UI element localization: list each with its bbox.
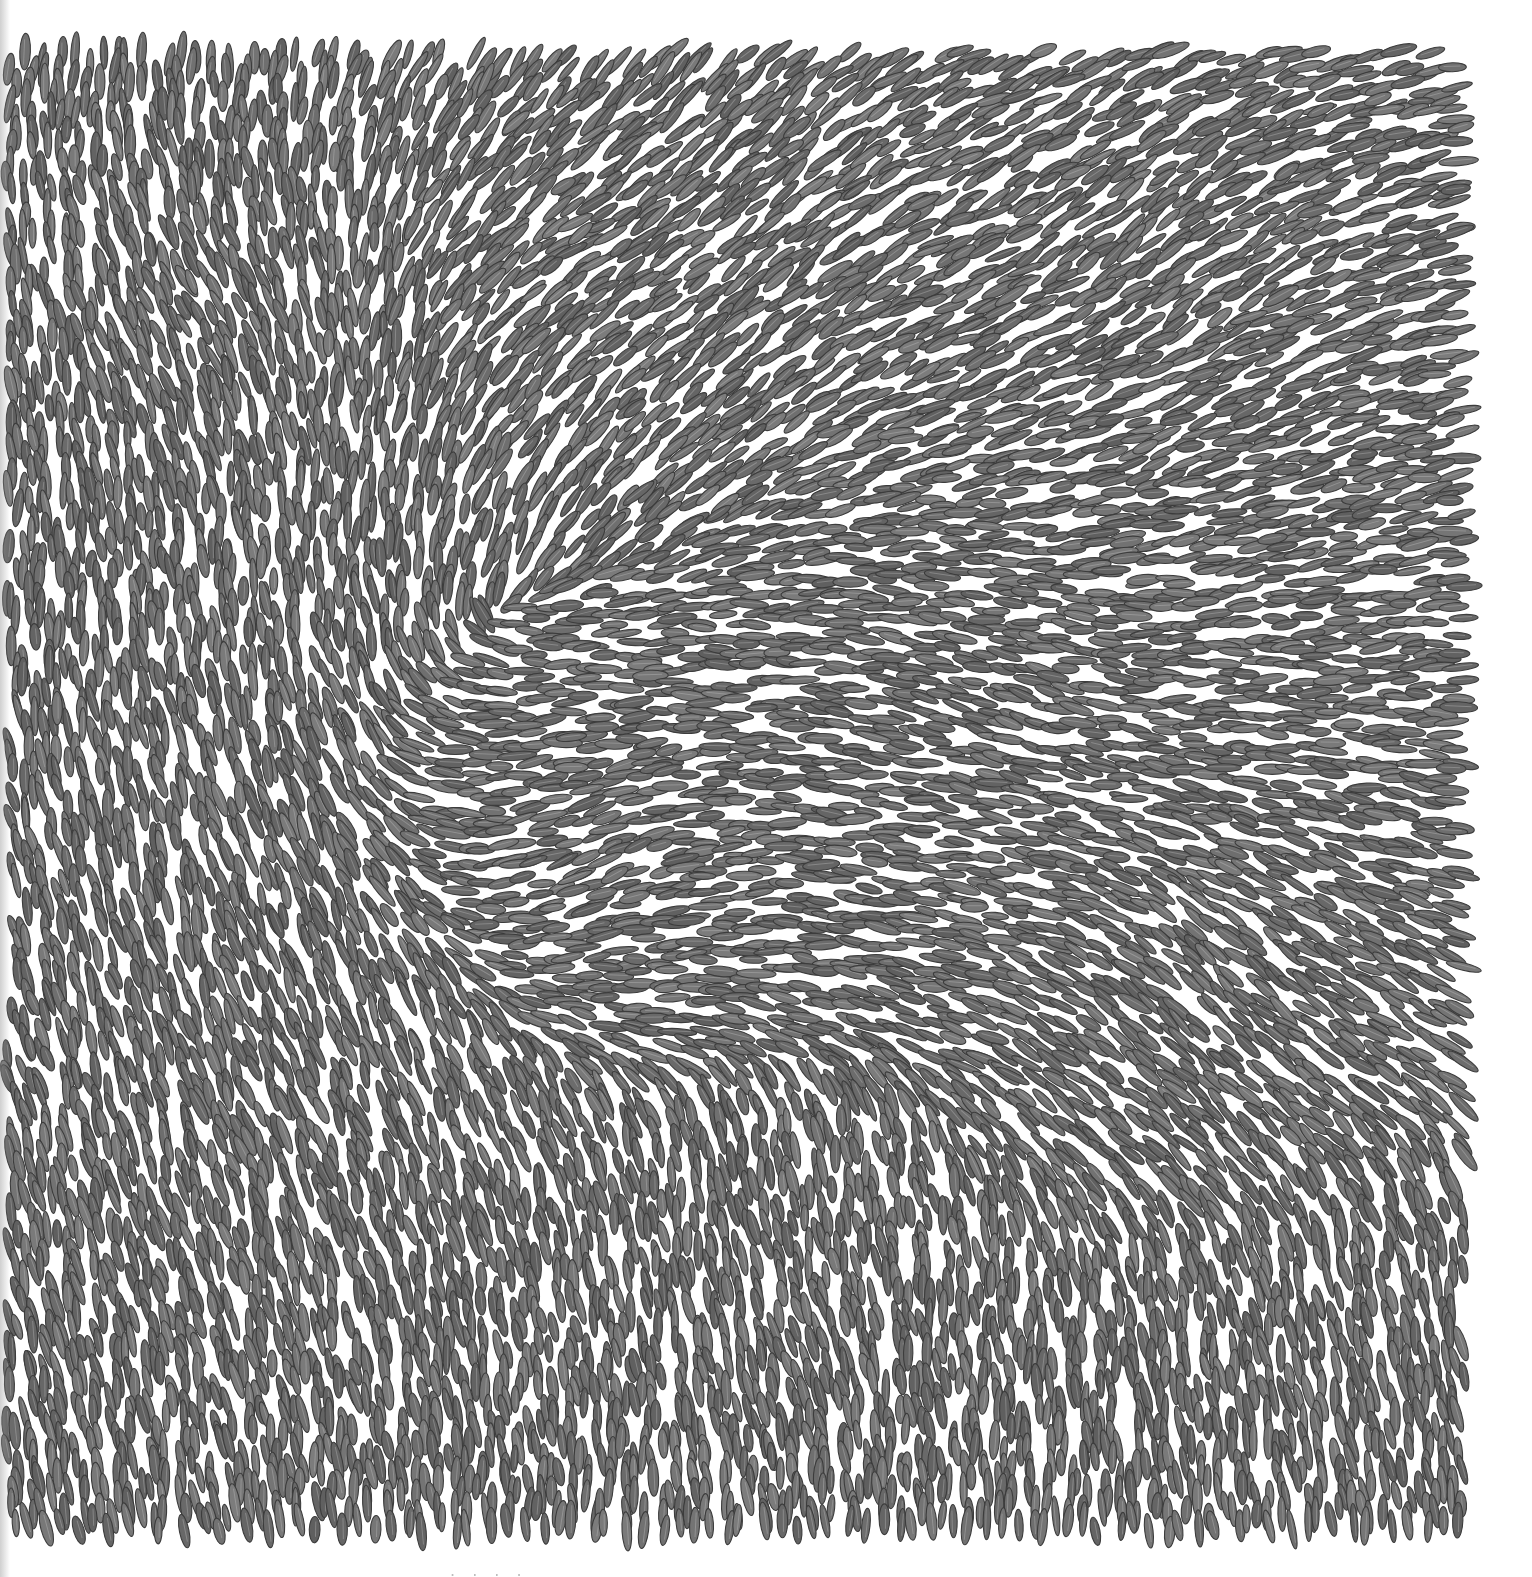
grain-field <box>0 0 1532 1577</box>
cropped-caption: · · · · <box>450 1566 528 1577</box>
rice-grain-drawing: · · · · <box>0 0 1532 1577</box>
